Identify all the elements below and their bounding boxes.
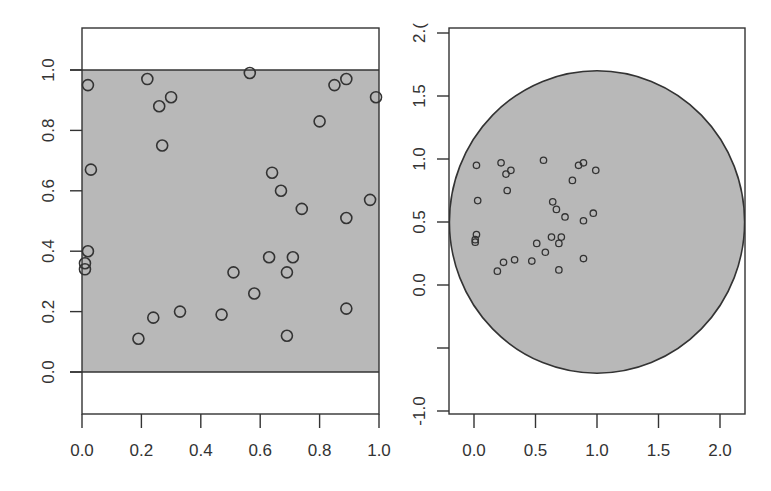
x-tick-label: 0.5 [524,441,548,460]
y-tick-label: 0.5 [410,210,429,234]
x-tick-label: 2.0 [708,441,732,460]
y-tick-label: 1.5 [410,84,429,108]
circle-region [449,71,744,373]
figure: 0.00.20.40.60.81.00.00.20.40.60.81.0 -1.… [0,0,771,491]
right-scatter-panel: -1.00.00.51.01.52.(0.00.51.01.52.0 [0,0,771,491]
y-tick-label: 2.( [410,23,429,43]
x-tick-label: 0.0 [462,441,486,460]
y-tick-label: -1.0 [410,396,429,425]
x-tick-label: 1.0 [585,441,609,460]
x-tick-label: 1.5 [647,441,671,460]
y-tick-label: 1.0 [410,147,429,171]
y-tick-label: 0.0 [410,273,429,297]
